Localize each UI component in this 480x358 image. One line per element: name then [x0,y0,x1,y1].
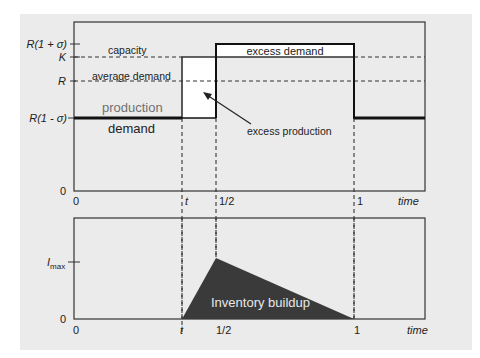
label-imax: Imax [47,256,65,271]
production-label: production [102,100,163,115]
label-bottom-x-one: 1 [354,324,360,336]
label-r-high: R(1 + σ) [26,38,67,50]
label-bottom-x-half: 1/2 [216,324,231,336]
label-x-t: t [185,195,189,207]
excess-production-label: excess production [247,125,332,137]
capacity-label: capacity [108,44,147,56]
bottom-chart: Imax 0 0 t 1/2 1 time Inventory buildup [47,218,428,336]
label-r: R [58,75,66,87]
label-k: K [59,51,67,63]
label-x-time: time [398,195,419,207]
excess-demand-label: excess demand [246,45,323,57]
inventory-label: Inventory buildup [211,295,310,310]
label-bottom-x-t: t [180,324,184,336]
label-bottom-x-zero: 0 [73,324,79,336]
demand-label: demand [108,121,155,136]
label-y-zero: 0 [60,185,66,197]
label-bottom-x-time: time [407,324,428,336]
excess-production-area [182,57,216,118]
average-demand-label: average demand [92,70,171,82]
label-x-zero: 0 [73,195,79,207]
label-r-low: R(1 - σ) [29,112,67,124]
label-x-one: 1 [357,195,363,207]
label-bottom-y-zero: 0 [60,313,66,325]
label-x-half: 1/2 [219,195,234,207]
diagram-canvas: R(1 + σ) K R R(1 - σ) 0 0 t 1/2 1 time c… [0,0,480,358]
